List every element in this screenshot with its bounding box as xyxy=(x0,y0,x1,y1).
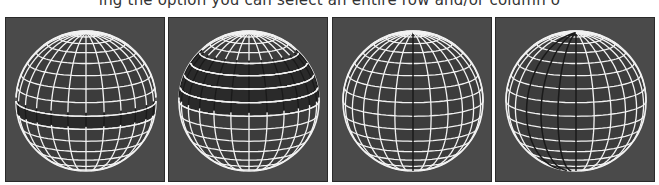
caption-text: ing the option you can select an entire … xyxy=(0,0,659,7)
sphere-panel-column-selected[interactable] xyxy=(332,17,492,182)
sphere-panel-rows-selected[interactable] xyxy=(168,17,328,182)
sphere-panel-row-selected[interactable] xyxy=(5,17,165,182)
sphere-panel-columns-selected[interactable] xyxy=(495,17,655,182)
